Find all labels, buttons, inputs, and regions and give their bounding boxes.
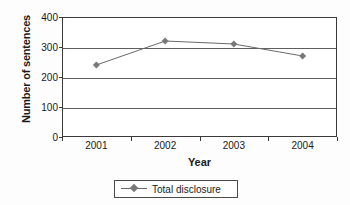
line-chart: Number of sentences 0100200300400 200120… <box>0 0 350 205</box>
diamond-marker-icon <box>121 184 147 194</box>
x-axis-title: Year <box>62 156 337 168</box>
x-axis-tick-label: 2001 <box>72 140 120 151</box>
chart-legend: Total disclosure <box>114 180 238 198</box>
x-axis-tick-label: 2004 <box>279 140 327 151</box>
data-point-marker <box>299 53 305 59</box>
y-axis-tick-marks <box>26 17 66 137</box>
data-point-marker <box>162 38 168 44</box>
x-axis-tick-label: 2003 <box>210 140 258 151</box>
series-line <box>96 41 302 65</box>
x-axis-tick-label: 2002 <box>141 140 189 151</box>
x-axis-tick-labels: 2001200220032004 <box>62 140 337 156</box>
series-total-disclosure <box>62 17 337 137</box>
x-axis-tick-mark <box>337 137 338 141</box>
data-point-marker <box>93 62 99 68</box>
data-point-marker <box>231 41 237 47</box>
legend-item-label: Total disclosure <box>152 184 221 195</box>
